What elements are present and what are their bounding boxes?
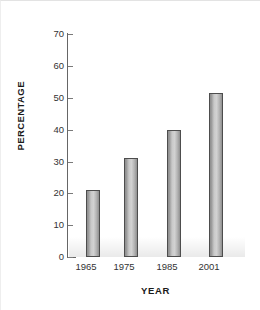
x-axis-tick-label-1975: 1975 <box>102 262 146 272</box>
y-axis-tick-label-70: 70 <box>24 29 64 39</box>
bar-2001 <box>209 93 223 257</box>
x-axis-tick-label-1985: 1985 <box>145 262 189 272</box>
bar-1965 <box>86 190 100 257</box>
bar-1975 <box>124 158 138 257</box>
y-axis-tick-label-60: 60 <box>24 61 64 71</box>
y-axis-tick-label-30: 30 <box>24 157 64 167</box>
y-axis-tick-0 <box>68 257 73 258</box>
y-axis-tick-label-50: 50 <box>24 93 64 103</box>
y-axis-tick-label-20: 20 <box>24 188 64 198</box>
bars-layer <box>68 34 243 257</box>
bar-chart-figure: 70 60 50 40 30 20 10 0 1965 1975 1985 20… <box>0 0 260 310</box>
y-axis-tick-label-40: 40 <box>24 125 64 135</box>
y-axis-tick-label-0: 0 <box>24 252 64 262</box>
y-axis-title: PERCENTAGE <box>16 76 26 156</box>
x-axis-title: YEAR <box>68 286 243 296</box>
x-axis-tick-label-2001: 2001 <box>187 262 231 272</box>
bar-1985 <box>167 130 181 257</box>
y-axis-tick-label-10: 10 <box>24 220 64 230</box>
